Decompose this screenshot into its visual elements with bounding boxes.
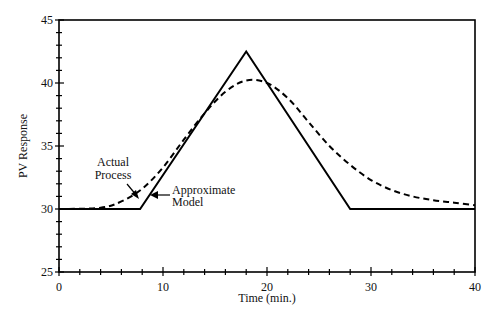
series-actual-process: [59, 80, 475, 209]
y-axis-title: PV Response: [16, 114, 30, 178]
plot-area: [59, 52, 475, 210]
annotation-actual-process: Actual Process: [95, 155, 139, 199]
annotation-model-line2: Model: [172, 195, 204, 209]
y-tick-label: 25: [41, 265, 53, 279]
y-tick-label: 45: [41, 13, 53, 27]
chart-canvas: 0102030402530354045 Time (min.) PV Respo…: [0, 0, 496, 323]
y-tick-label: 35: [41, 139, 53, 153]
x-tick-label: 0: [56, 280, 62, 294]
annotation-actual-line2: Process: [95, 168, 132, 182]
x-axis-title: Time (min.): [238, 291, 296, 305]
series-approximate-model: [59, 52, 475, 210]
x-tick-label: 10: [157, 280, 169, 294]
x-tick-label: 30: [365, 280, 377, 294]
annotation-approximate-model: Approximate Model: [150, 183, 235, 209]
plot-frame: [59, 20, 475, 272]
axes: 0102030402530354045: [41, 13, 481, 294]
y-tick-label: 40: [41, 76, 53, 90]
x-tick-label: 40: [469, 280, 481, 294]
y-tick-label: 30: [41, 202, 53, 216]
annotation-actual-line1: Actual: [97, 155, 130, 169]
